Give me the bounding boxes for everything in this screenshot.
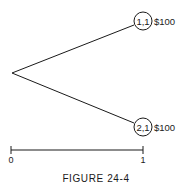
- branch-upper: [12, 25, 134, 73]
- node-value: $100: [154, 122, 175, 133]
- node-label: 1,1: [136, 16, 149, 27]
- scale-end-label: 1: [140, 155, 145, 165]
- branch-lower: [12, 73, 134, 123]
- scale-start-label: 0: [8, 155, 13, 165]
- figure-caption: FIGURE 24-4: [62, 173, 129, 184]
- node-value: $100: [154, 16, 175, 27]
- node-1-1: 1,1 $100: [134, 12, 175, 30]
- tree-diagram: 1,1 $100 2,1 $100 0 1 FIGURE 24-4: [0, 0, 191, 192]
- time-scale: 0 1: [8, 146, 145, 165]
- node-label: 2,1: [136, 122, 149, 133]
- node-2-1: 2,1 $100: [134, 118, 175, 136]
